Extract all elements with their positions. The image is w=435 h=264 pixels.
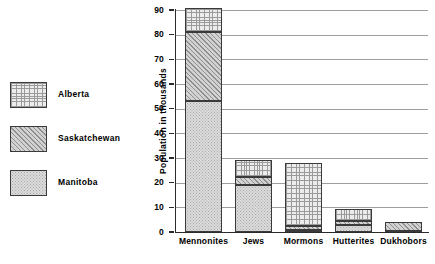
y-tick-label-20: 20 [134, 177, 164, 187]
bar-segment-hutterites-saskatchewan [335, 221, 372, 225]
y-tick-mark-10 [169, 207, 174, 208]
x-category-label-dukhobors: Dukhobors [372, 236, 435, 246]
legend-swatch-alberta [10, 82, 47, 108]
legend-swatch-manitoba [10, 170, 47, 196]
y-tick-mark-90 [169, 9, 174, 10]
legend-item-alberta: Alberta [10, 82, 145, 126]
bar-mormons [285, 10, 322, 232]
bar-mennonites [185, 10, 222, 232]
chart-legend: Alberta Saskatchewan Manitoba [10, 82, 145, 214]
bar-jews [235, 10, 272, 232]
y-tick-label-40: 40 [134, 128, 164, 138]
y-tick-label-30: 30 [134, 153, 164, 163]
legend-swatch-saskatchewan [10, 126, 47, 152]
y-tick-mark-30 [169, 157, 174, 158]
y-tick-label-60: 60 [134, 79, 164, 89]
bar-segment-jews-alberta [235, 160, 272, 176]
plot-area [176, 10, 428, 232]
y-tick-label-0: 0 [134, 227, 164, 237]
y-tick-mark-80 [169, 34, 174, 35]
legend-label-alberta: Alberta [58, 89, 89, 99]
y-axis-tick-labels: 0102030405060708090 [132, 0, 164, 264]
bar-segment-mormons-manitoba [285, 230, 322, 232]
y-tick-mark-0 [169, 231, 174, 232]
y-tick-mark-20 [169, 182, 174, 183]
chart-figure: Alberta Saskatchewan Manitoba Population… [0, 0, 435, 264]
bar-hutterites [335, 10, 372, 232]
y-tick-mark-70 [169, 59, 174, 60]
bar-segment-jews-saskatchewan [235, 177, 272, 186]
bar-segment-hutterites-alberta [335, 209, 372, 221]
y-tick-mark-50 [169, 108, 174, 109]
bar-segment-jews-manitoba [235, 185, 272, 232]
y-tick-label-50: 50 [134, 103, 164, 113]
y-tick-label-90: 90 [134, 5, 164, 15]
y-tick-label-70: 70 [134, 54, 164, 64]
legend-item-manitoba: Manitoba [10, 170, 145, 214]
y-tick-mark-40 [169, 133, 174, 134]
legend-item-saskatchewan: Saskatchewan [10, 126, 145, 170]
legend-label-manitoba: Manitoba [58, 177, 98, 187]
bar-segment-mennonites-manitoba [185, 101, 222, 232]
y-tick-label-10: 10 [134, 202, 164, 212]
legend-label-saskatchewan: Saskatchewan [58, 133, 120, 143]
bar-segment-mennonites-alberta [185, 8, 222, 33]
bar-dukhobors [385, 10, 422, 232]
bar-segment-dukhobors-saskatchewan [385, 222, 422, 231]
y-tick-mark-60 [169, 83, 174, 84]
y-tick-label-80: 80 [134, 29, 164, 39]
bar-segment-mormons-alberta [285, 163, 322, 226]
bar-segment-hutterites-manitoba [335, 225, 372, 232]
bar-segment-mennonites-saskatchewan [185, 32, 222, 101]
bar-segment-mormons-saskatchewan [285, 226, 322, 230]
